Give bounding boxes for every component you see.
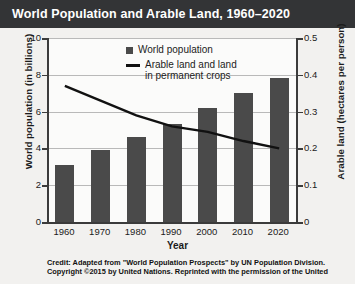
legend-label-arable-line1: Arable land and land <box>145 59 237 70</box>
x-axis <box>47 222 298 224</box>
y-axis-right-title: Arable land (hectares per person) <box>335 12 346 192</box>
legend-label-population: World population <box>138 44 213 56</box>
y-axis-left-title: World population (in billions) <box>23 12 34 192</box>
y-axis-right-tick <box>298 222 303 224</box>
x-axis-title: Year <box>0 240 355 251</box>
y-axis-left-tick <box>42 222 47 224</box>
bar-swatch-icon <box>126 47 133 54</box>
y-axis-right-tick <box>298 185 303 187</box>
y-axis-left-label: 6 <box>1 106 41 117</box>
legend-label-arable-line2: in permanent crops <box>145 70 231 81</box>
x-axis-label: 1960 <box>47 226 81 237</box>
y-axis-left-label: 8 <box>1 69 41 80</box>
legend-item-population: World population <box>126 44 286 56</box>
chart-figure: World Population and Arable Land, 1960–2… <box>0 0 355 284</box>
credit-text-1: Adapted from "World Population Prospects… <box>73 258 325 267</box>
x-axis-label: 2020 <box>261 226 295 237</box>
y-axis-left-label: 4 <box>1 142 41 153</box>
x-axis-label: 1990 <box>154 226 188 237</box>
y-axis-left-label: 0 <box>1 216 41 227</box>
y-axis-right-tick <box>298 148 303 150</box>
line-swatch-icon <box>126 64 140 67</box>
x-axis-label: 2010 <box>226 226 260 237</box>
y-axis-left-label: 10 <box>1 32 41 43</box>
page-title: World Population and Arable Land, 1960–2… <box>0 7 290 21</box>
y-axis-right-tick <box>298 75 303 77</box>
credit-line-1: Credit: Adapted from "World Population P… <box>47 258 347 267</box>
y-axis-left-label: 2 <box>1 179 41 190</box>
x-axis-label: 2000 <box>190 226 224 237</box>
y-axis-right-tick <box>298 38 303 40</box>
credit-label: Credit: <box>47 258 71 267</box>
chart-legend: World population Arable land and land in… <box>126 44 286 85</box>
y-axis-right-label: 0 <box>304 216 344 227</box>
legend-item-arable-land: Arable land and land in permanent crops <box>126 59 286 82</box>
credit-block: Credit: Adapted from "World Population P… <box>47 258 347 276</box>
y-axis-right-tick <box>298 112 303 114</box>
x-axis-label: 1970 <box>83 226 117 237</box>
x-axis-label: 1980 <box>118 226 152 237</box>
chart-title-bar: World Population and Arable Land, 1960–2… <box>0 0 355 28</box>
credit-line-2: Copyright ©2015 by United Nations. Repri… <box>47 267 347 276</box>
